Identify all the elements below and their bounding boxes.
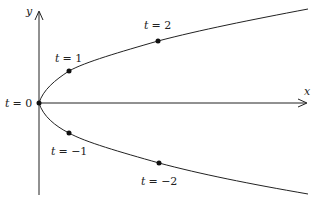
label-t-1: t= 1 <box>55 52 82 65</box>
point-t-2 <box>156 39 161 44</box>
label-t-2: t= 2 <box>144 19 171 32</box>
parametric-curve-diagram: y x t= 0 t= 1 t= 2 t= −1 t= −2 <box>0 0 313 211</box>
label-t-neg2: t= −2 <box>141 175 177 188</box>
point-t-neg2 <box>157 161 162 166</box>
label-t-0: t= 0 <box>5 97 32 110</box>
point-t-neg1 <box>67 131 72 136</box>
y-axis-label: y <box>25 5 33 18</box>
x-axis <box>39 99 307 107</box>
point-t-0 <box>37 101 42 106</box>
x-axis-label: x <box>304 85 311 98</box>
label-t-neg1: t= −1 <box>51 145 87 158</box>
point-t-1 <box>67 69 72 74</box>
parabola-curve <box>39 9 308 194</box>
